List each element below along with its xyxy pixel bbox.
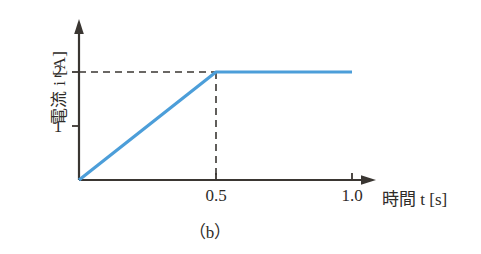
figure-caption: （b） bbox=[160, 218, 260, 243]
chart-canvas bbox=[0, 0, 481, 254]
x-tick-label-1-0: 1.0 bbox=[327, 186, 377, 206]
x-tick-label-0-5: 0.5 bbox=[191, 186, 241, 206]
x-axis-arrow-icon bbox=[361, 175, 376, 185]
x-axis-title: 時間 t [s] bbox=[382, 185, 447, 210]
y-axis-arrow-icon bbox=[74, 19, 84, 34]
y-tick-label-1: 1 bbox=[48, 117, 68, 137]
y-axis bbox=[74, 19, 84, 180]
y-axis-title: 電流 i [A] bbox=[46, 8, 68, 168]
x-axis-title-text: 時間 t [s] bbox=[382, 190, 447, 209]
x-axis bbox=[79, 175, 376, 185]
y-tick-label-2: 2 bbox=[48, 62, 68, 82]
figure-b-current-vs-time: 電流 i [A] 時間 t [s] 2 1 0.5 1.0 （b） bbox=[0, 0, 481, 254]
